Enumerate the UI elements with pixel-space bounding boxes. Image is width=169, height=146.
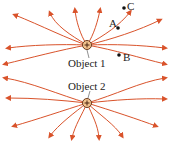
point-c-dot <box>122 6 126 10</box>
object1-charge <box>83 41 92 50</box>
object1-label: Object 1 <box>68 58 106 69</box>
object2-charge <box>83 99 92 108</box>
object2-label: Object 2 <box>68 81 106 92</box>
point-b-label: B <box>123 52 130 63</box>
point-b-dot <box>117 53 121 57</box>
field-lines <box>0 0 169 146</box>
field-diagram: Object 1 Object 2 A B C <box>0 0 169 146</box>
point-a-label: A <box>109 18 117 29</box>
point-c-label: C <box>127 1 134 12</box>
